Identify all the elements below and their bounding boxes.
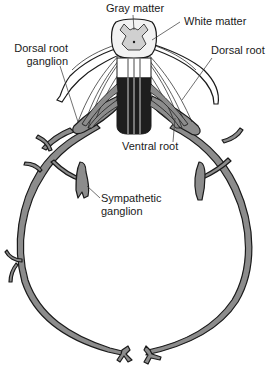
left-lower-twig-2 [9, 263, 18, 282]
label-white-matter: White matter [184, 15, 246, 27]
nerve-ring [5, 123, 252, 364]
right-upper-twig [222, 128, 243, 143]
label-dorsal-root-ganglion-line2: ganglion [6, 55, 68, 67]
label-gray-matter: Gray matter [106, 2, 164, 14]
spinal-cord [112, 19, 157, 134]
right-sympathetic-ganglion [195, 162, 205, 200]
label-dorsal-root-ganglion-line1: Dorsal root [6, 42, 68, 54]
right-spinal-nerve [146, 123, 252, 355]
left-spinal-nerve [17, 124, 126, 356]
left-twig-2 [24, 162, 42, 172]
label-dorsal-root: Dorsal root [211, 44, 265, 56]
label-sympathetic-ganglion-line2: ganglion [101, 205, 143, 217]
label-sympathetic-ganglion-line1: Sympathetic [101, 192, 162, 204]
label-ventral-root: Ventral root [122, 140, 178, 152]
left-sympathetic-ganglion [76, 162, 89, 198]
